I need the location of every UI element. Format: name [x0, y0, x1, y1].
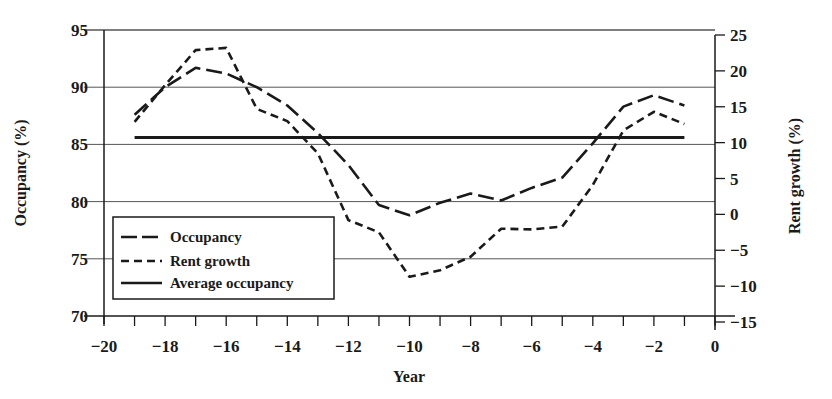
- legend-label-rent-growth: Rent growth: [170, 253, 251, 269]
- right-tick-label: 5: [730, 170, 739, 189]
- x-tick-label: −14: [274, 337, 301, 356]
- x-tick-label: −18: [152, 337, 179, 356]
- left-tick-label: 80: [71, 193, 88, 212]
- right-tick-label: 25: [730, 26, 747, 45]
- x-tick-label: −4: [584, 337, 603, 356]
- x-axis-ticks: −20−18−16−14−12−10−8−6−4−20: [91, 316, 720, 356]
- right-axis-ticks: −15−10−50510152025: [715, 26, 757, 332]
- x-tick-label: −6: [523, 337, 541, 356]
- left-tick-label: 95: [71, 21, 88, 40]
- right-tick-label: −10: [730, 277, 757, 296]
- x-tick-label: −16: [213, 337, 240, 356]
- x-tick-label: −20: [91, 337, 118, 356]
- left-tick-label: 90: [71, 78, 88, 97]
- series-occupancy: [135, 68, 685, 216]
- right-tick-label: 15: [730, 98, 747, 117]
- chart: 707580859095 −15−10−50510152025 −20−18−1…: [0, 0, 832, 399]
- legend: Occupancy Rent growth Average occupancy: [113, 217, 334, 299]
- right-tick-label: 0: [730, 205, 739, 224]
- legend-label-occupancy: Occupancy: [170, 229, 242, 245]
- legend-label-average-occupancy: Average occupancy: [170, 275, 294, 291]
- right-axis-title: Rent growth (%): [786, 118, 804, 234]
- x-tick-label: −2: [645, 337, 663, 356]
- x-tick-label: 0: [711, 337, 720, 356]
- right-tick-label: −5: [730, 241, 748, 260]
- left-tick-label: 75: [71, 250, 88, 269]
- left-axis-title: Occupancy (%): [12, 119, 30, 226]
- right-tick-label: −15: [730, 313, 757, 332]
- left-axis-ticks: 707580859095: [71, 21, 88, 326]
- left-tick-label: 85: [71, 135, 88, 154]
- x-tick-label: −10: [396, 337, 423, 356]
- x-tick-label: −12: [335, 337, 362, 356]
- right-tick-label: 20: [730, 62, 747, 81]
- right-tick-label: 10: [730, 134, 747, 153]
- left-tick-label: 70: [71, 307, 88, 326]
- x-axis-title: Year: [393, 368, 425, 385]
- x-tick-label: −8: [462, 337, 480, 356]
